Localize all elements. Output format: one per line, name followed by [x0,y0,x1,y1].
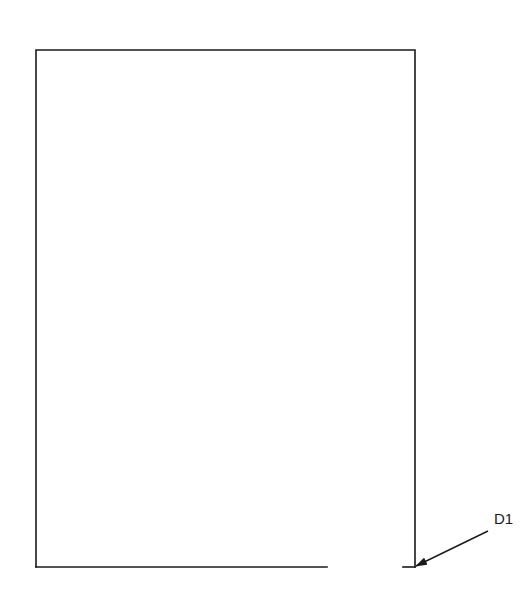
callout-d1: D1 [416,510,513,566]
outline-shape [36,50,415,567]
leader-line [416,531,488,566]
outline-left-top-right [36,50,415,567]
diagram-canvas: D1 [0,0,531,593]
callout-label: D1 [494,510,513,527]
